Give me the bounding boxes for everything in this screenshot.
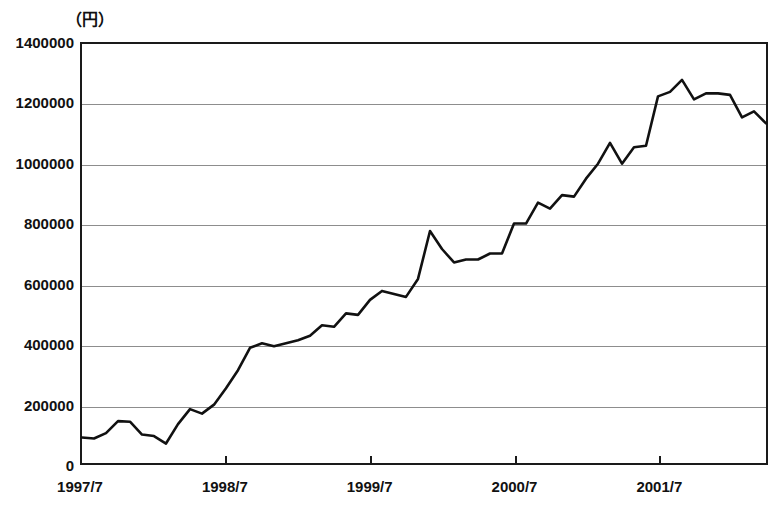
chart-root: （円） 020000040000060000080000010000001200… <box>0 0 773 510</box>
x-axis-tick-mark <box>515 456 517 465</box>
x-axis-tick-label: 2000/7 <box>492 478 538 495</box>
x-axis-tick-group: 1997/71998/71999/72000/72001/7 <box>0 0 773 510</box>
x-axis-tick-label: 1997/7 <box>57 478 103 495</box>
x-axis-tick-label: 2001/7 <box>636 478 682 495</box>
x-axis-tick-label: 1999/7 <box>347 478 393 495</box>
x-axis-tick-mark <box>659 456 661 465</box>
x-axis-tick-mark <box>225 456 227 465</box>
x-axis-tick-mark <box>370 456 372 465</box>
x-axis-tick-label: 1998/7 <box>202 478 248 495</box>
